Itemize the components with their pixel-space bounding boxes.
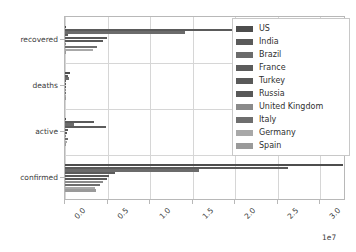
legend-swatch-icon bbox=[236, 39, 253, 45]
legend-label: Russia bbox=[259, 90, 285, 98]
legend-item-russia: Russia bbox=[236, 87, 345, 100]
legend-item-brazil: Brazil bbox=[236, 48, 345, 61]
x-tick-label-1: 0.5 bbox=[115, 206, 130, 221]
legend-label: Germany bbox=[259, 129, 296, 137]
legend-label: Brazil bbox=[259, 51, 281, 59]
bar-recovered-italy bbox=[65, 46, 97, 48]
bar-confirmed-turkey bbox=[65, 175, 109, 177]
bar-recovered-spain bbox=[65, 51, 66, 53]
bar-recovered-france bbox=[65, 34, 68, 36]
x-tick-label-5: 2.5 bbox=[285, 206, 300, 221]
legend-item-turkey: Turkey bbox=[236, 74, 345, 87]
bar-confirmed-us bbox=[65, 164, 343, 166]
x-tick-mark-5 bbox=[277, 200, 278, 204]
legend-swatch-icon bbox=[236, 52, 253, 58]
x-tick-mark-6 bbox=[319, 200, 320, 204]
legend-label: Turkey bbox=[259, 77, 285, 85]
legend-swatch-icon bbox=[236, 91, 253, 97]
bar-confirmed-germany bbox=[65, 187, 95, 189]
legend-label: France bbox=[259, 64, 286, 72]
x-tick-label-3: 1.5 bbox=[200, 206, 215, 221]
x-tick-label-4: 2.0 bbox=[243, 206, 258, 221]
x-tick-mark-1 bbox=[107, 200, 108, 204]
bar-recovered-india bbox=[65, 29, 257, 31]
x-tick-mark-3 bbox=[192, 200, 193, 204]
bar-recovered-turkey bbox=[65, 37, 107, 39]
legend-swatch-icon bbox=[236, 65, 253, 71]
bar-recovered-germany bbox=[65, 49, 93, 51]
bar-active-brazil bbox=[65, 123, 74, 125]
legend-swatch-icon bbox=[236, 130, 253, 136]
bar-active-germany bbox=[65, 141, 67, 143]
bar-confirmed-russia bbox=[65, 178, 107, 180]
legend-label: United Kingdom bbox=[259, 103, 323, 111]
bar-recovered-us bbox=[65, 26, 66, 28]
bar-deaths-germany bbox=[65, 95, 66, 97]
bar-active-us bbox=[65, 118, 66, 120]
bar-deaths-france bbox=[65, 80, 66, 82]
x-tick-mark-4 bbox=[234, 200, 235, 204]
legend-item-france: France bbox=[236, 61, 345, 74]
bar-confirmed-france bbox=[65, 172, 115, 174]
bar-deaths-india bbox=[65, 75, 68, 77]
legend-label: India bbox=[259, 38, 279, 46]
y-tick-label-confirmed: confirmed bbox=[0, 173, 58, 182]
bar-confirmed-united-kingdom bbox=[65, 181, 103, 183]
x-tick-mark-0 bbox=[64, 200, 65, 204]
bar-active-turkey bbox=[65, 129, 68, 131]
legend-item-us: US bbox=[236, 22, 345, 35]
x-axis-offset-label: 1e7 bbox=[322, 233, 336, 242]
legend-label: Spain bbox=[259, 142, 281, 150]
gridline-vertical-3 bbox=[193, 17, 194, 199]
bar-active-france bbox=[65, 126, 106, 128]
legend-swatch-icon bbox=[236, 104, 253, 110]
bar-deaths-united-kingdom bbox=[65, 89, 66, 91]
bar-deaths-italy bbox=[65, 92, 66, 94]
legend-item-italy: Italy bbox=[236, 113, 345, 126]
legend-swatch-icon bbox=[236, 26, 253, 32]
bar-deaths-russia bbox=[65, 86, 66, 88]
chart-figure: recovereddeathsactiveconfirmed 0.00.51.0… bbox=[0, 0, 356, 252]
bar-confirmed-india bbox=[65, 167, 288, 169]
legend-item-germany: Germany bbox=[236, 126, 345, 139]
legend-swatch-icon bbox=[236, 78, 253, 84]
bar-active-united-kingdom bbox=[65, 135, 66, 137]
legend-item-india: India bbox=[236, 35, 345, 48]
gridline-vertical-2 bbox=[150, 17, 151, 199]
x-tick-label-6: 3.0 bbox=[328, 206, 343, 221]
bar-deaths-us bbox=[65, 72, 70, 74]
bar-active-spain bbox=[65, 143, 66, 145]
legend-swatch-icon bbox=[236, 143, 253, 149]
y-tick-label-deaths: deaths bbox=[0, 81, 58, 90]
bar-active-india bbox=[65, 121, 94, 123]
bar-confirmed-brazil bbox=[65, 169, 199, 171]
bar-deaths-brazil bbox=[65, 77, 69, 79]
bar-recovered-brazil bbox=[65, 31, 185, 33]
bar-deaths-turkey bbox=[65, 83, 66, 85]
y-tick-label-recovered: recovered bbox=[0, 35, 58, 44]
bar-active-italy bbox=[65, 138, 68, 140]
bar-confirmed-spain bbox=[65, 189, 96, 191]
bar-active-russia bbox=[65, 132, 67, 134]
bar-deaths-spain bbox=[65, 97, 66, 99]
legend-label: US bbox=[259, 25, 270, 33]
legend-item-spain: Spain bbox=[236, 139, 345, 152]
x-tick-mark-2 bbox=[149, 200, 150, 204]
legend-label: Italy bbox=[259, 116, 276, 124]
bar-confirmed-italy bbox=[65, 184, 100, 186]
chart-legend: USIndiaBrazilFranceTurkeyRussiaUnited Ki… bbox=[232, 18, 350, 156]
legend-swatch-icon bbox=[236, 117, 253, 123]
bar-recovered-united-kingdom bbox=[65, 43, 66, 45]
bar-recovered-russia bbox=[65, 40, 103, 42]
y-tick-label-active: active bbox=[0, 127, 58, 136]
legend-item-united-kingdom: United Kingdom bbox=[236, 100, 345, 113]
x-tick-label-2: 1.0 bbox=[158, 206, 173, 221]
x-tick-label-0: 0.0 bbox=[72, 206, 87, 221]
